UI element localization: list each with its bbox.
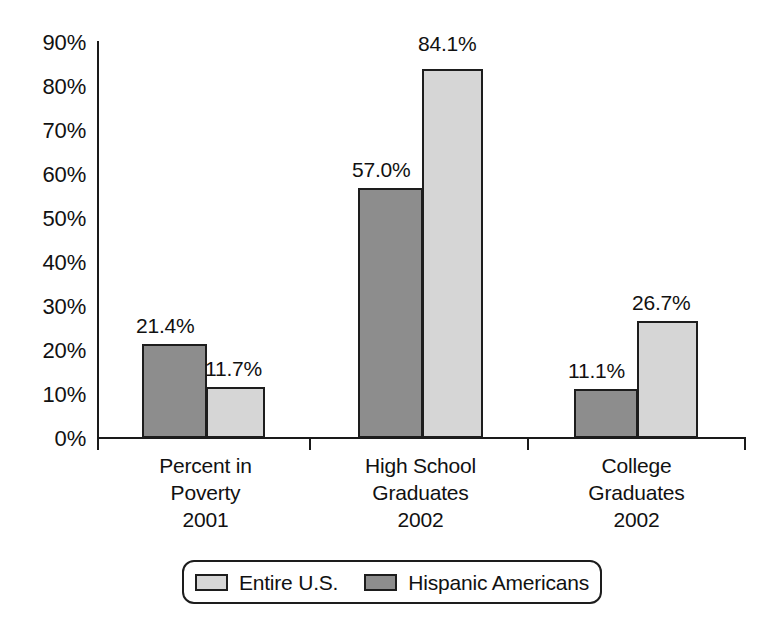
x-axis-tick-end: [744, 439, 746, 450]
y-axis-tick-20: 20%: [0, 340, 86, 362]
bar-label-26-7: 26.7%: [632, 292, 691, 313]
legend-label-entire-us: Entire U.S.: [239, 572, 338, 593]
chart-legend: Entire U.S. Hispanic Americans: [182, 560, 602, 604]
bar-hispanic-poverty: [142, 344, 207, 438]
bar-hispanic-college: [574, 389, 638, 438]
bar-label-21-4: 21.4%: [136, 315, 195, 336]
x-axis-label-poverty: Percent in Poverty 2001: [123, 452, 288, 533]
x-axis-label-highschool-line3: 2002: [338, 506, 503, 533]
legend-item-entire-us: Entire U.S.: [195, 572, 338, 593]
bar-label-57-0: 57.0%: [352, 159, 411, 180]
y-axis-tick-80: 80%: [0, 76, 86, 98]
x-axis-tick-group2: [527, 439, 529, 450]
bar-entire-us-poverty: [206, 387, 265, 438]
x-axis-label-college-line1: College: [554, 452, 719, 479]
legend-swatch-icon-hispanic-americans: [364, 574, 397, 591]
y-axis-tick-40: 40%: [0, 252, 86, 274]
x-axis-label-college-line2: Graduates: [554, 479, 719, 506]
legend-item-hispanic-americans: Hispanic Americans: [364, 572, 589, 593]
y-axis-tick-30: 30%: [0, 296, 86, 318]
legend-swatch-icon-entire-us: [195, 574, 228, 591]
y-axis-line: [97, 41, 99, 439]
bar-chart: 90% 80% 70% 60% 50% 40% 30% 20% 10% 0% 2…: [0, 0, 784, 631]
x-axis-tick-group1: [309, 439, 311, 450]
y-axis-tick-60: 60%: [0, 164, 86, 186]
x-axis-label-highschool-line1: High School: [338, 452, 503, 479]
bar-label-84-1: 84.1%: [418, 33, 477, 54]
x-axis-label-poverty-line2: Poverty: [123, 479, 288, 506]
x-axis-label-highschool: High School Graduates 2002: [338, 452, 503, 533]
y-axis-tick-90: 90%: [0, 32, 86, 54]
bar-entire-us-college: [637, 321, 698, 438]
x-axis-label-highschool-line2: Graduates: [338, 479, 503, 506]
x-axis-label-college-line3: 2002: [554, 506, 719, 533]
x-axis-tick-start: [97, 439, 99, 450]
bar-label-11-7: 11.7%: [205, 358, 262, 379]
y-axis-tick-50: 50%: [0, 208, 86, 230]
x-axis-label-poverty-line3: 2001: [123, 506, 288, 533]
y-axis-tick-70: 70%: [0, 120, 86, 142]
bar-hispanic-highschool: [358, 188, 423, 438]
x-axis-label-college: College Graduates 2002: [554, 452, 719, 533]
legend-label-hispanic-americans: Hispanic Americans: [408, 572, 589, 593]
x-axis-label-poverty-line1: Percent in: [123, 452, 288, 479]
bar-label-11-1: 11.1%: [568, 360, 625, 381]
y-axis-tick-0: 0%: [0, 428, 86, 450]
y-axis-tick-10: 10%: [0, 384, 86, 406]
bar-entire-us-highschool: [422, 69, 483, 438]
